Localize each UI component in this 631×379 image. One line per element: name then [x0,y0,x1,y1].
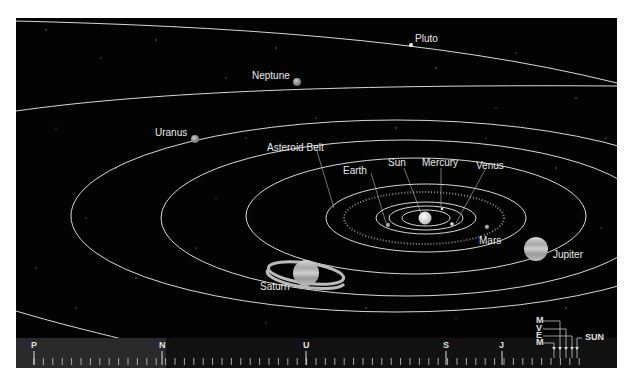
scale-label-uranus: U [303,341,310,350]
pluto-planet [409,43,413,47]
starfield [35,29,606,338]
label-pluto: Pluto [415,34,438,44]
scale-label-sun: SUN [585,333,604,342]
sun [419,212,432,225]
neptune-planet [293,78,301,86]
mercury-planet [441,208,444,211]
label-earth: Earth [343,166,367,176]
label-neptune: Neptune [252,71,290,81]
distance-scale-bar [16,321,617,368]
label-asteroid-belt: Asteroid Belt [267,143,324,153]
scale-label-pluto: P [31,341,37,350]
mars-planet [485,225,489,229]
jupiter-planet [524,237,548,261]
scale-label-jupiter: J [499,341,504,350]
solar-system-diagram: Pluto Neptune Uranus Asteroid Belt Earth… [16,18,617,368]
scale-label-saturn: S [443,341,449,350]
label-mercury: Mercury [422,158,458,168]
orbits-graphic [16,18,617,368]
scale-label-mars: M [536,338,544,347]
label-mars: Mars [479,236,501,246]
orbit-lines [16,21,617,340]
label-jupiter: Jupiter [553,250,583,260]
label-sun: Sun [388,158,406,168]
uranus-planet [191,135,199,143]
scale-label-neptune: N [159,341,166,350]
earth-planet [386,223,390,227]
label-uranus: Uranus [155,128,187,138]
label-saturn: Saturn [260,282,289,292]
label-venus: Venus [476,161,504,171]
venus-planet [450,222,454,226]
